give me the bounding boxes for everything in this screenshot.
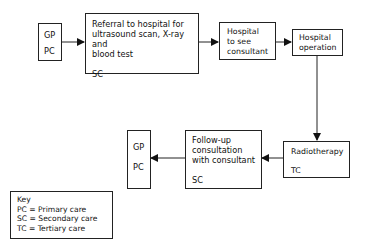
key-title: Key xyxy=(17,195,112,205)
operation-line-1: Hospital xyxy=(299,33,342,43)
care-level: PC xyxy=(133,162,150,172)
operation-line-2: operation xyxy=(299,43,342,53)
gp-primary-care-box-end: GP PC xyxy=(127,130,151,189)
followup-line-3: with consultant xyxy=(192,155,261,165)
hospital-operation-box: Hospital operation xyxy=(292,29,343,56)
care-level: SC xyxy=(92,69,198,79)
hospital-consultant-box: Hospital to see consultant xyxy=(219,22,276,60)
key-item-sc: SC = Secondary care xyxy=(17,214,112,224)
radiotherapy-box: Radiotherapy TC xyxy=(283,141,350,178)
referral-line-2: ultrasound scan, X-ray and xyxy=(92,29,198,49)
hospital-line-3: consultant xyxy=(227,47,275,57)
referral-box: Referral to hospital for ultrasound scan… xyxy=(85,13,199,74)
followup-consultation-box: Follow-up consultation with consultant S… xyxy=(185,130,262,189)
care-level: PC xyxy=(44,46,61,56)
gp-primary-care-box-start: GP PC xyxy=(38,23,62,61)
referral-line-1: Referral to hospital for xyxy=(92,19,198,29)
key-item-tc: TC = Tertiary care xyxy=(17,224,112,234)
care-level: SC xyxy=(192,175,261,185)
hospital-line-1: Hospital xyxy=(227,27,275,37)
hospital-line-2: to see xyxy=(227,37,275,47)
gp-label: GP xyxy=(44,30,61,40)
key-item-pc: PC = Primary care xyxy=(17,205,112,215)
referral-line-3: blood test xyxy=(92,49,198,59)
key-legend: Key PC = Primary care SC = Secondary car… xyxy=(10,191,113,239)
gp-label: GP xyxy=(133,142,150,152)
care-level: TC xyxy=(291,166,349,176)
followup-line-2: consultation xyxy=(192,145,261,155)
radiotherapy-label: Radiotherapy xyxy=(291,147,349,157)
followup-line-1: Follow-up xyxy=(192,135,261,145)
